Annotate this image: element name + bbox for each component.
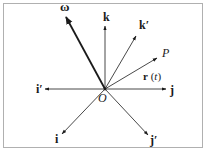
r-of-t-label: r (t) [143, 70, 161, 83]
j-label: j [169, 83, 174, 97]
origin-label: O [98, 91, 107, 105]
k-prime-label: k′ [139, 18, 149, 32]
origin-point [104, 88, 107, 91]
i-prime-label: i′ [36, 82, 43, 96]
k-label: k [103, 10, 110, 24]
diagram-frame [4, 4, 203, 148]
omega-label: ω [60, 0, 70, 14]
j-prime-label: j′ [149, 133, 157, 147]
r-label: P [161, 46, 170, 60]
rotating-frame-diagram: ωkk′Pji′ij′ O r (t) [0, 0, 206, 152]
